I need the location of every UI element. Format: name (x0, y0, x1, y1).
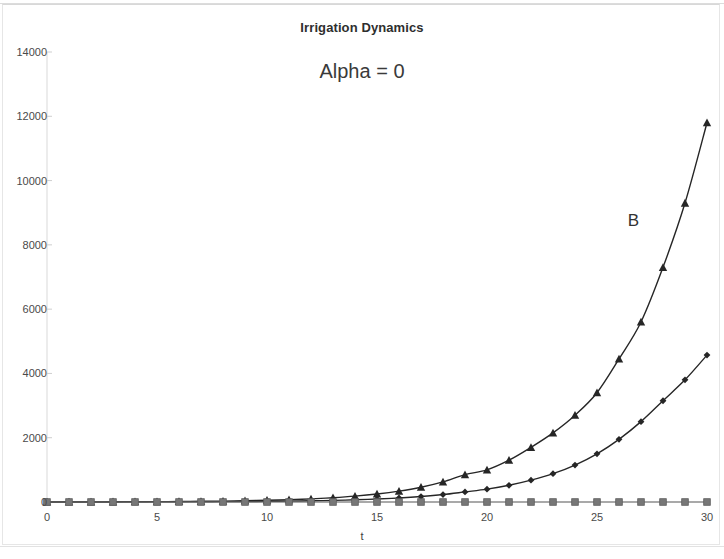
data-point-square (242, 499, 249, 506)
series-series-2 (44, 352, 711, 506)
axis-layer (47, 52, 707, 502)
y-axis-tick-label-text: 2000 (3, 432, 47, 444)
data-point-square (176, 499, 183, 506)
y-axis-tick-label-text: 14000 (3, 46, 47, 58)
y-axis-tick-label-text: 8000 (3, 239, 47, 251)
data-point-square (308, 499, 315, 506)
y-axis-tick-label-text: 10000 (3, 175, 47, 187)
data-point-square (638, 499, 645, 506)
data-point-triangle (637, 318, 645, 326)
series-label-b: B (628, 211, 639, 231)
data-point-square (132, 499, 139, 506)
data-point-square (704, 499, 711, 506)
data-point-square (616, 499, 623, 506)
x-axis-tick-label: 0 (44, 511, 50, 523)
data-point-square (220, 499, 227, 506)
data-point-triangle (615, 355, 623, 363)
data-point-square (66, 499, 73, 506)
y-axis-tick-label-text: 12000 (3, 110, 47, 122)
data-point-square (396, 499, 403, 506)
series-B (43, 119, 711, 506)
data-point-square (528, 499, 535, 506)
x-axis-tick-label: 25 (591, 511, 603, 523)
x-axis-tick-label: 20 (481, 511, 493, 523)
data-point-square (110, 499, 117, 506)
data-point-square (440, 499, 447, 506)
data-point-triangle (659, 263, 667, 271)
y-axis-tick-label-text: 0 (3, 496, 47, 508)
x-axis-tick-label: 15 (371, 511, 383, 523)
chart-screenshot: Irrigation Dynamics Alpha = 0 0200040006… (0, 0, 724, 559)
data-point-square (286, 499, 293, 506)
series-series-3 (44, 499, 711, 506)
data-point-diamond (440, 491, 447, 498)
data-point-square (154, 499, 161, 506)
data-point-square (484, 499, 491, 506)
x-axis-tick-label: 5 (154, 511, 160, 523)
data-point-square (462, 499, 469, 506)
y-axis-tick-label-text: 6000 (3, 303, 47, 315)
data-point-diamond (484, 486, 491, 493)
plot-area: 02000400060008000100001200014000 0510152… (0, 0, 724, 559)
data-point-square (264, 499, 271, 506)
series-line (47, 123, 707, 502)
chart-canvas (0, 0, 724, 559)
data-point-square (660, 499, 667, 506)
x-axis-tick-label: 10 (261, 511, 273, 523)
data-point-triangle (681, 199, 689, 207)
data-point-diamond (594, 450, 601, 457)
data-point-square (418, 499, 425, 506)
data-point-square (594, 499, 601, 506)
series-layer (43, 119, 711, 506)
x-axis-title: t (0, 530, 724, 542)
data-point-square (550, 499, 557, 506)
data-point-triangle (527, 443, 535, 451)
data-point-square (506, 499, 513, 506)
data-point-diamond (572, 462, 579, 469)
data-point-square (88, 499, 95, 506)
data-point-square (374, 499, 381, 506)
data-point-diamond (506, 482, 513, 489)
data-point-square (330, 499, 337, 506)
data-point-diamond (462, 489, 469, 496)
data-point-diamond (528, 477, 535, 484)
data-point-square (572, 499, 579, 506)
data-point-diamond (550, 470, 557, 477)
data-point-square (198, 499, 205, 506)
data-point-square (352, 499, 359, 506)
data-point-triangle (505, 456, 513, 464)
data-point-square (682, 499, 689, 506)
x-axis-tick-label: 30 (701, 511, 713, 523)
data-point-triangle (703, 119, 711, 127)
y-axis-tick-label-text: 4000 (3, 367, 47, 379)
